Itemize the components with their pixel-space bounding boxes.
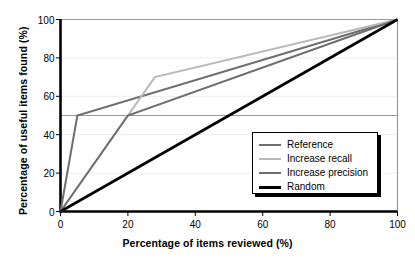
legend-swatch: [259, 186, 281, 189]
chart-figure: 020406080100 020406080100 Percentage of …: [0, 0, 415, 266]
x-axis-title: Percentage of items reviewed (%): [0, 237, 415, 249]
y-tick-label: 0: [29, 206, 55, 217]
legend-item: Reference: [253, 138, 377, 152]
y-tick-label: 60: [29, 91, 55, 102]
legend-swatch: [259, 158, 281, 160]
legend-label: Random: [287, 182, 325, 192]
x-tick-label: 0: [58, 219, 64, 230]
legend-item: Random: [253, 180, 377, 194]
y-tick-label: 100: [29, 14, 55, 25]
x-tick-label: 40: [190, 219, 201, 230]
legend-swatch: [259, 172, 281, 174]
legend-label: Reference: [287, 140, 333, 150]
chart-legend: ReferenceIncrease recallIncrease precisi…: [252, 132, 378, 194]
legend-item: Increase precision: [253, 166, 377, 180]
legend-label: Increase recall: [287, 154, 352, 164]
legend-swatch: [259, 144, 281, 146]
x-tick-label: 80: [325, 219, 336, 230]
x-tick-label: 20: [122, 219, 133, 230]
y-axis-title: Percentage of useful items found (%): [17, 26, 29, 215]
legend-item: Increase recall: [253, 152, 377, 166]
y-tick-label: 20: [29, 168, 55, 179]
legend-label: Increase precision: [287, 168, 368, 178]
x-tick-label: 100: [389, 219, 406, 230]
x-tick-label: 60: [257, 219, 268, 230]
y-tick-label: 40: [29, 129, 55, 140]
y-tick-label: 80: [29, 52, 55, 63]
